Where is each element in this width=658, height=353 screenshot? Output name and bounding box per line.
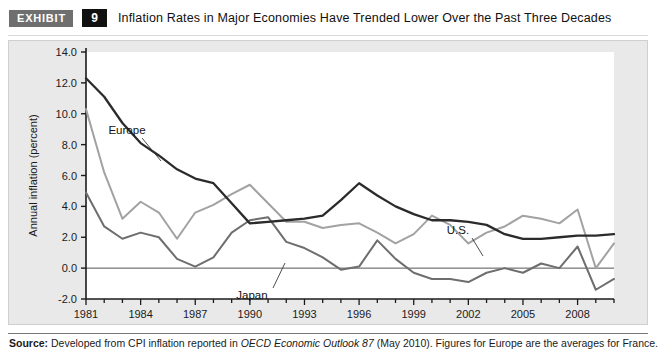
y-tick-label: -2.0 — [58, 293, 77, 305]
exhibit-badge: EXHIBIT — [9, 10, 73, 27]
x-tick-label: 2008 — [565, 308, 589, 320]
inflation-line-chart: -2.00.02.04.06.08.010.012.014.0198119841… — [9, 41, 649, 326]
exhibit-header: EXHIBIT 9 Inflation Rates in Major Econo… — [0, 0, 656, 36]
x-tick-label: 1981 — [74, 308, 98, 320]
series-label-japan: Japan — [236, 289, 267, 301]
x-tick-label: 1996 — [347, 308, 371, 320]
y-tick-label: 2.0 — [62, 231, 77, 243]
y-tick-label: 0.0 — [62, 262, 77, 274]
x-tick-label: 1987 — [183, 308, 207, 320]
y-tick-label: 12.0 — [56, 77, 77, 89]
chart-panel: -2.00.02.04.06.08.010.012.014.0198119841… — [8, 40, 648, 325]
source-divider — [8, 333, 648, 334]
x-tick-label: 2002 — [456, 308, 480, 320]
exhibit-number-badge: 9 — [82, 9, 107, 27]
y-tick-label: 6.0 — [62, 170, 77, 182]
leader-line-europe — [142, 138, 161, 161]
exhibit-title: Inflation Rates in Major Economies Have … — [118, 11, 611, 25]
leader-line-us — [472, 238, 483, 256]
series-line-europe — [86, 78, 614, 239]
y-tick-label: 14.0 — [56, 46, 77, 58]
source-label: Source: — [9, 337, 48, 349]
x-tick-label: 1990 — [238, 308, 262, 320]
series-line-japan — [86, 192, 614, 289]
y-tick-label: 10.0 — [56, 108, 77, 120]
source-publication: OECD Economic Outlook 87 — [241, 337, 374, 349]
series-label-europe: Europe — [108, 124, 145, 136]
y-tick-label: 8.0 — [62, 139, 77, 151]
header-divider — [8, 35, 648, 36]
source-note: Source: Developed from CPI inflation rep… — [9, 337, 649, 349]
leader-line-japan — [273, 263, 285, 288]
x-tick-label: 1999 — [401, 308, 425, 320]
source-text-2: (May 2010). Figures for Europe are the a… — [374, 337, 658, 349]
source-text-1: Developed from CPI inflation reported in — [48, 337, 241, 349]
y-axis-title: Annual inflation (percent) — [27, 114, 39, 236]
x-tick-label: 2005 — [511, 308, 535, 320]
y-tick-label: 4.0 — [62, 200, 77, 212]
series-label-us: U.S. — [447, 224, 469, 236]
x-tick-label: 1993 — [292, 308, 316, 320]
x-tick-label: 1984 — [128, 308, 152, 320]
